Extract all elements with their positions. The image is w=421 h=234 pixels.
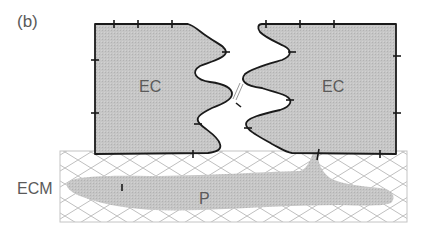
- diagram-figure: (b) EC EC ECM P: [0, 0, 421, 234]
- extracellular-matrix-label: ECM: [17, 180, 53, 198]
- process-p-label: P: [199, 190, 210, 208]
- cell-junction: [233, 83, 243, 100]
- endothelial-cell-left-label: EC: [139, 78, 161, 96]
- panel-label: (b): [17, 12, 38, 32]
- endothelial-cell-right-label: EC: [322, 78, 344, 96]
- endothelial-cell-left: [91, 20, 241, 158]
- diagram-canvas: [0, 0, 421, 234]
